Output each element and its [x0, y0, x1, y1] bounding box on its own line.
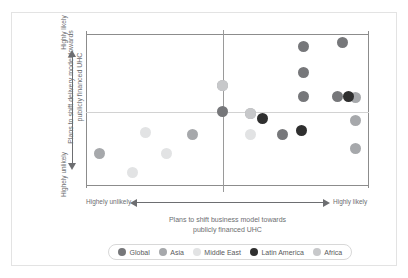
- tick-bottom-right: [368, 183, 369, 188]
- legend-item-label: Asia: [170, 249, 184, 256]
- tick-bottom-left: [86, 183, 87, 188]
- scatter-point: [187, 129, 198, 140]
- tick-top-left: [86, 31, 87, 36]
- legend-swatch-icon: [159, 248, 167, 256]
- legend-item[interactable]: Middle East: [193, 248, 241, 256]
- legend-item-label: Global: [130, 249, 150, 256]
- x-axis-line: [137, 202, 323, 203]
- scatter-point: [127, 167, 138, 178]
- x-axis-low-label: Highely unlikely: [86, 198, 131, 205]
- y-axis-title-line1: Plans to shift delivery model towards: [66, 12, 75, 162]
- scatter-point: [277, 129, 288, 140]
- scatter-point: [298, 67, 309, 78]
- y-axis: Highly likely Highely unlikely Plans to …: [52, 34, 84, 186]
- legend-item[interactable]: Global: [118, 248, 150, 256]
- scatter-point: [296, 125, 307, 136]
- legend-swatch-icon: [250, 248, 258, 256]
- x-axis-high-label: Highly likely: [333, 198, 367, 205]
- plot-frame-top: [86, 34, 369, 35]
- scatter-point: [337, 37, 348, 48]
- plot-area: [86, 34, 369, 186]
- y-axis-title: Plans to shift delivery model towards pu…: [66, 12, 84, 162]
- scatter-point: [350, 115, 361, 126]
- tick-top-right: [368, 31, 369, 36]
- scatter-point: [217, 106, 228, 117]
- y-axis-title-line2: publicly financed UHC: [75, 12, 84, 162]
- scatter-point: [140, 127, 151, 138]
- chart-figure: Highly likely Highely unlikely Plans to …: [11, 12, 397, 266]
- scatter-point: [350, 143, 361, 154]
- chart-legend: GlobalAsiaMiddle EastLatin AmericaAfrica: [108, 244, 352, 260]
- x-axis-arrow-right-icon: [323, 199, 330, 207]
- x-axis-title-line2: publicly financed UHC: [86, 225, 369, 235]
- scatter-point: [257, 113, 268, 124]
- x-axis: Highely unlikely Highly likely Plans to …: [86, 197, 369, 237]
- y-axis-arrow-down-icon: [68, 163, 76, 170]
- legend-swatch-icon: [118, 248, 126, 256]
- plot-frame-right: [368, 34, 369, 186]
- legend-swatch-icon: [313, 248, 321, 256]
- scatter-point: [298, 91, 309, 102]
- scatter-point: [161, 148, 172, 159]
- x-axis-title: Plans to shift business model towards pu…: [86, 215, 369, 234]
- legend-item[interactable]: Asia: [159, 248, 184, 256]
- scatter-point: [245, 108, 256, 119]
- scatter-point: [343, 91, 354, 102]
- legend-item-label: Middle East: [204, 249, 241, 256]
- scatter-point: [332, 91, 343, 102]
- scatter-point: [217, 80, 228, 91]
- legend-item-label: Africa: [324, 249, 342, 256]
- legend-item[interactable]: Latin America: [250, 248, 304, 256]
- x-axis-title-line1: Plans to shift business model towards: [86, 215, 369, 225]
- legend-item-label: Latin America: [261, 249, 303, 256]
- scatter-point: [298, 41, 309, 52]
- scatter-point: [245, 129, 256, 140]
- legend-swatch-icon: [193, 248, 201, 256]
- legend-item[interactable]: Africa: [313, 248, 342, 256]
- plot-frame-left: [86, 34, 87, 186]
- plot-frame-bottom: [86, 185, 369, 186]
- scatter-point: [94, 148, 105, 159]
